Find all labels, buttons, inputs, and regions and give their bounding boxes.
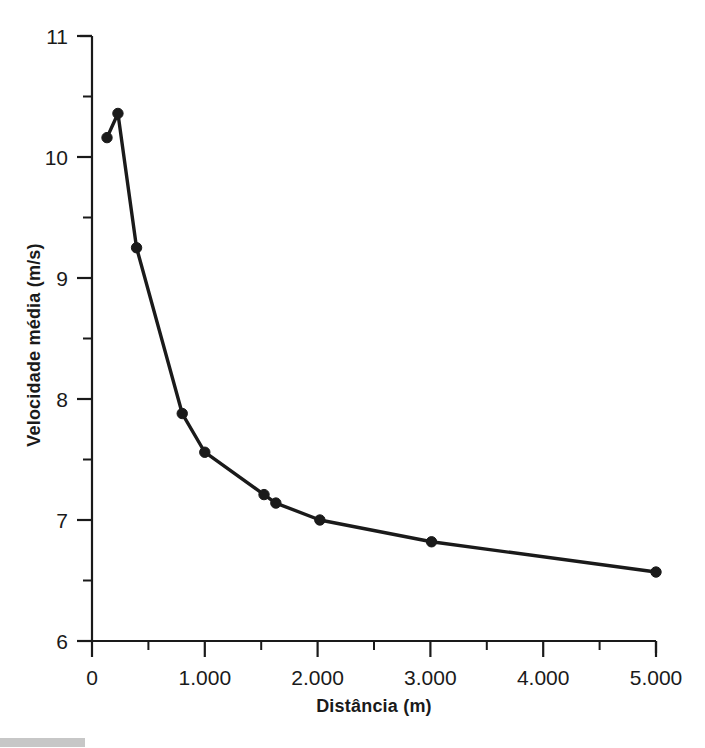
x-axis-tick-labels: 01.0002.0003.0004.0005.000	[86, 666, 682, 689]
axis-spines	[80, 36, 656, 657]
x-tick-label: 3.000	[404, 666, 457, 689]
data-series-markers	[102, 108, 661, 577]
y-tick-label: 11	[46, 25, 68, 48]
x-tick-label: 0	[86, 666, 98, 689]
x-axis-ticks	[148, 641, 656, 657]
scan-artifact	[0, 738, 85, 747]
data-point	[177, 408, 187, 418]
x-tick-label: 5.000	[630, 666, 683, 689]
y-tick-label: 10	[45, 146, 68, 169]
x-tick-label: 2.000	[291, 666, 344, 689]
x-axis-title: Distância (m)	[316, 696, 432, 716]
data-point	[102, 132, 112, 142]
y-tick-label: 6	[56, 630, 68, 653]
x-tick-label: 1.000	[179, 666, 232, 689]
x-tick-label: 4.000	[517, 666, 570, 689]
y-tick-label: 7	[56, 509, 68, 532]
chart-figure: 67891011 01.0002.0003.0004.0005.000 Dist…	[0, 0, 705, 748]
y-tick-label: 8	[56, 388, 68, 411]
data-point	[315, 515, 325, 525]
y-tick-label: 9	[56, 267, 68, 290]
data-series-line	[107, 113, 656, 572]
line-chart-svg: 67891011 01.0002.0003.0004.0005.000 Dist…	[0, 0, 705, 748]
data-point	[113, 108, 123, 118]
y-axis-ticks	[77, 36, 92, 641]
data-point	[271, 498, 281, 508]
data-point	[200, 447, 210, 457]
data-point	[426, 537, 436, 547]
y-axis-title: Velocidade média (m/s)	[24, 243, 44, 446]
data-point	[651, 567, 661, 577]
data-point	[131, 243, 141, 253]
y-axis-tick-labels: 67891011	[45, 25, 68, 653]
data-point	[259, 489, 269, 499]
